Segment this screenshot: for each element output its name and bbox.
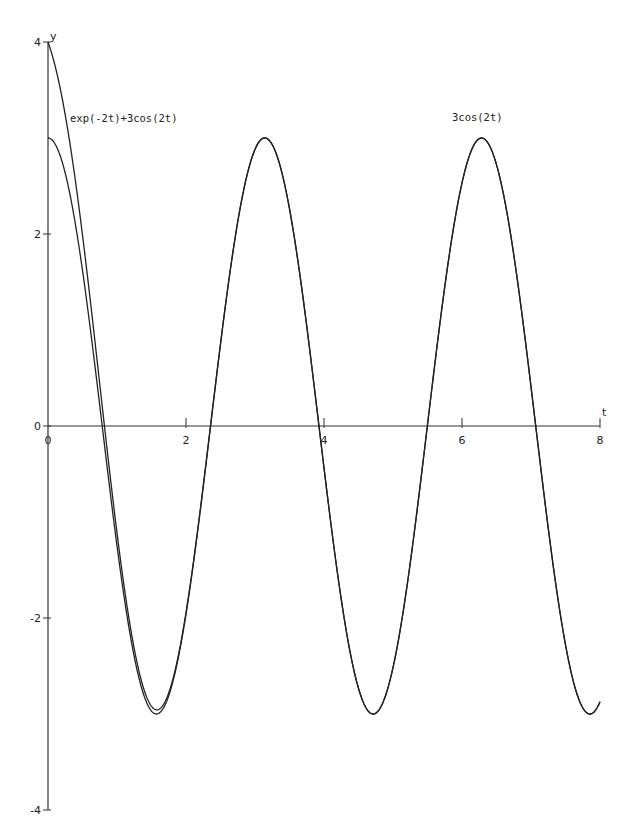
x-tick-label: 2 bbox=[183, 434, 190, 447]
x-tick-label: 0 bbox=[45, 434, 52, 447]
curves bbox=[48, 42, 600, 714]
y-tick-label: 2 bbox=[34, 228, 41, 241]
y-tick-label: -4 bbox=[30, 804, 41, 817]
x-axis-label: t bbox=[602, 406, 607, 419]
y-tick-label: 0 bbox=[34, 420, 41, 433]
y-tick-label: -2 bbox=[30, 612, 41, 625]
x-tick-label: 6 bbox=[459, 434, 466, 447]
x-tick-label: 4 bbox=[321, 434, 328, 447]
series-line-1 bbox=[48, 42, 600, 714]
series-label-cos: 3cos(2t) bbox=[452, 111, 503, 123]
y-axis-label: y bbox=[50, 30, 57, 43]
axes bbox=[43, 42, 600, 810]
series-label-exp: exp(-2t)+3cos(2t) bbox=[70, 112, 177, 124]
plot-area: -4-202402468ytexp(-2t)+3cos(2t)3cos(2t) bbox=[0, 0, 638, 840]
y-tick-label: 4 bbox=[34, 36, 41, 49]
x-tick-label: 8 bbox=[597, 434, 604, 447]
